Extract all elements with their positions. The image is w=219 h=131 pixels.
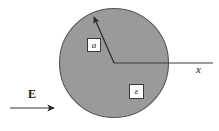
e-field-label: E xyxy=(28,88,36,100)
x-axis-label: x xyxy=(196,64,201,75)
figure-canvas: a ε x E xyxy=(0,0,219,131)
permittivity-label-epsilon: ε xyxy=(129,84,144,99)
radius-label-a: a xyxy=(87,38,101,52)
diagram-svg xyxy=(0,0,219,131)
